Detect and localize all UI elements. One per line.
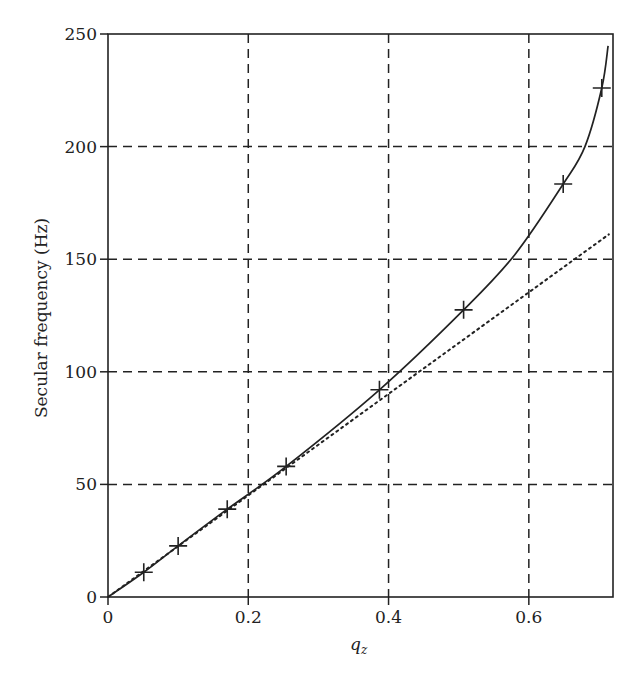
x-tick-label: 0.6	[515, 607, 542, 627]
x-axis-label-sub: z	[360, 643, 368, 657]
y-axis-label: Secular frequency (Hz)	[31, 218, 51, 418]
data-series	[108, 46, 609, 597]
x-tick-label: 0.4	[375, 607, 402, 627]
exact-curve-line	[108, 46, 608, 597]
y-tick-label: 150	[65, 249, 97, 269]
y-tick-labels: 050100150200250	[65, 24, 97, 607]
x-tick-label: 0.2	[235, 607, 262, 627]
axis-ticks	[100, 34, 529, 605]
y-tick-label: 50	[75, 474, 97, 494]
plus-marker	[554, 175, 572, 193]
x-axis-label-main: q	[350, 634, 361, 654]
x-tick-labels: 00.20.40.6	[103, 607, 543, 627]
plot-frame	[108, 34, 613, 597]
y-tick-label: 250	[65, 24, 97, 44]
chart: 00.20.40.6 050100150200250 Secular frequ…	[0, 0, 644, 682]
plus-marker	[593, 79, 611, 97]
linear-approximation-line	[108, 234, 609, 597]
y-tick-label: 200	[65, 137, 97, 157]
data-markers	[135, 79, 611, 581]
y-tick-label: 0	[86, 587, 97, 607]
y-tick-label: 100	[65, 362, 97, 382]
plus-marker	[135, 563, 153, 581]
grid-lines	[108, 34, 613, 597]
x-axis-label: qz	[350, 634, 368, 657]
plus-marker	[169, 537, 187, 555]
x-tick-label: 0	[103, 607, 114, 627]
